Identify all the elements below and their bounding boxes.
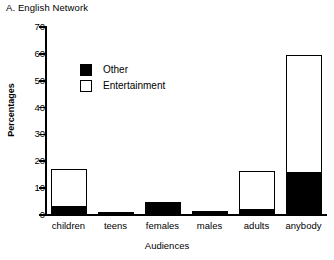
bar-segment-other [192, 211, 228, 215]
y-tick-label: 60 [11, 49, 45, 59]
y-tick-label: 20 [11, 156, 45, 166]
bar-segment-other [98, 212, 134, 215]
y-tick-label: 40 [11, 103, 45, 113]
legend-swatch-entertainment-icon [80, 80, 92, 92]
y-tick-label: 10 [11, 183, 45, 193]
chart-legend: Other Entertainment [80, 62, 165, 94]
legend-label-entertainment: Entertainment [103, 81, 165, 91]
chart-figure: A. English Network Percentages 010203040… [0, 0, 334, 260]
y-tick-label: 0 [11, 210, 45, 220]
bar-segment-other [145, 204, 181, 215]
legend-swatch-other-icon [80, 64, 92, 76]
bar-segment-other [286, 173, 322, 215]
bar-males [192, 211, 228, 215]
bar-segment-entertainment [239, 171, 275, 210]
bar-children [51, 169, 87, 215]
bar-adults [239, 171, 275, 215]
x-tick-label-anybody: anybody [264, 220, 334, 231]
bar-teens [98, 212, 134, 215]
bar-females [145, 203, 181, 215]
y-tick-label: 30 [11, 129, 45, 139]
bar-segment-entertainment [51, 169, 87, 207]
legend-label-other: Other [103, 65, 128, 75]
y-tick-label: 50 [11, 76, 45, 86]
bar-segment-other [239, 210, 275, 215]
bar-segment-other [51, 207, 87, 215]
y-tick-label: 70 [11, 22, 45, 32]
plot-area [45, 27, 327, 215]
bar-anybody [286, 55, 322, 215]
x-axis-label: Audiences [0, 240, 334, 251]
legend-item-other: Other [80, 62, 165, 78]
bar-segment-entertainment [286, 55, 322, 173]
legend-item-entertainment: Entertainment [80, 78, 165, 94]
